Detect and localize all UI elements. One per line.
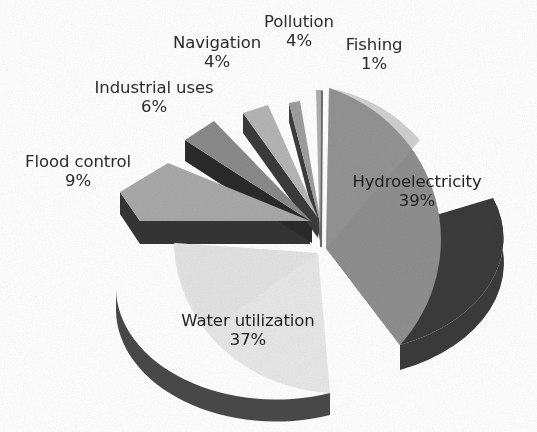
slice-label-hydroelectricity: Hydroelectricity 39% (352, 172, 481, 211)
pie-chart-figure: Navigation 4% Pollution 4% Fishing 1% In… (0, 0, 537, 432)
slice-label-fishing-name: Fishing (346, 35, 403, 54)
slice-label-water-utilization-name: Water utilization (181, 311, 314, 330)
pie-chart-graphic (0, 0, 537, 432)
slice-label-industrial-uses: Industrial uses 6% (95, 78, 214, 117)
slice-label-navigation-name: Navigation (173, 33, 261, 52)
slice-label-water-utilization: Water utilization 37% (181, 311, 314, 350)
slice-label-pollution-name: Pollution (264, 12, 334, 31)
slice-label-fishing: Fishing 1% (346, 35, 403, 74)
slice-label-water-utilization-value: 37% (181, 330, 314, 349)
slice-label-hydroelectricity-name: Hydroelectricity (352, 172, 481, 191)
slice-label-industrial-uses-name: Industrial uses (95, 78, 214, 97)
slice-label-fishing-value: 1% (346, 54, 403, 73)
slice-label-pollution: Pollution 4% (264, 12, 334, 51)
slice-label-navigation-value: 4% (173, 52, 261, 71)
slice-label-flood-control: Flood control 9% (25, 152, 131, 191)
slice-label-flood-control-value: 9% (25, 171, 131, 190)
slice-label-industrial-uses-value: 6% (95, 97, 214, 116)
slice-label-navigation: Navigation 4% (173, 33, 261, 72)
slice-label-hydroelectricity-value: 39% (352, 191, 481, 210)
slice-label-flood-control-name: Flood control (25, 152, 131, 171)
slice-label-pollution-value: 4% (264, 31, 334, 50)
